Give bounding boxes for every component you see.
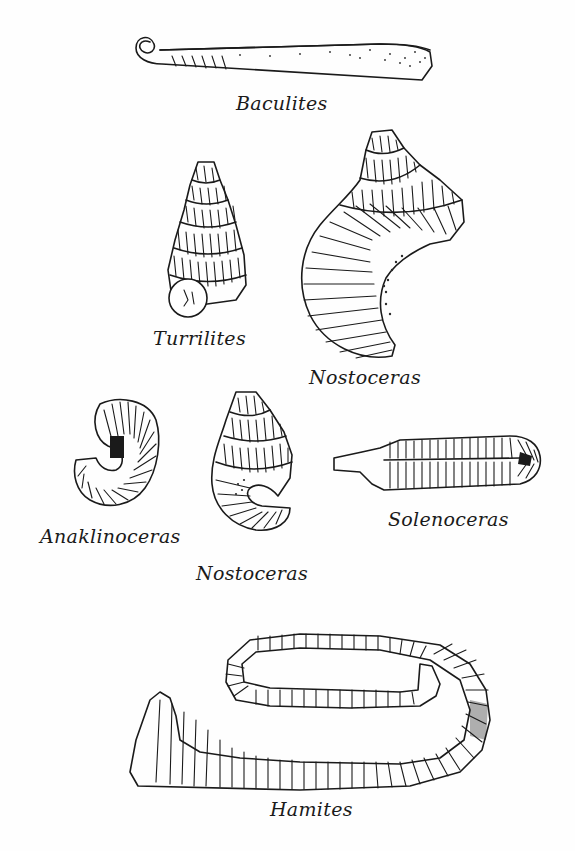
label-turrilites: Turrilites bbox=[153, 327, 246, 349]
label-nostoceras-large: Nostoceras bbox=[309, 366, 421, 388]
label-anaklinoceras: Anaklinoceras bbox=[40, 525, 181, 547]
label-baculites: Baculites bbox=[236, 92, 328, 114]
hamites-drawing bbox=[130, 634, 490, 790]
label-hamites: Hamites bbox=[270, 798, 353, 820]
nostoceras-small-drawing bbox=[212, 392, 292, 530]
turrilites-drawing bbox=[168, 162, 246, 317]
solenoceras-drawing bbox=[334, 436, 540, 490]
fossil-illustrations bbox=[0, 0, 575, 851]
baculites-drawing bbox=[136, 38, 432, 80]
nostoceras-large-drawing bbox=[302, 130, 464, 358]
fossil-plate: Baculites Turrilites Nostoceras Anaklino… bbox=[0, 0, 575, 851]
anaklinoceras-drawing bbox=[75, 400, 159, 506]
label-nostoceras-small: Nostoceras bbox=[196, 562, 308, 584]
label-solenoceras: Solenoceras bbox=[388, 508, 509, 530]
